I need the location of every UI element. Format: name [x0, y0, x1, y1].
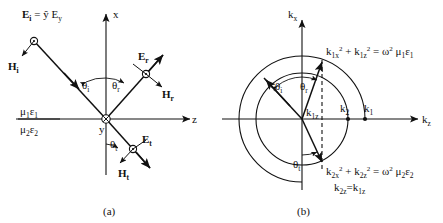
figure-svg: x z y Ei = ŷ Ey Hi Er Hr Et Ht θi [0, 0, 443, 223]
panel-a-reflected-ray-arrow [148, 55, 163, 72]
panel-a-ei-expr: = ŷ E [31, 8, 58, 20]
panel-a-theta-i-arc [86, 78, 106, 82]
panel-b-equation-3: k2z=k1z [334, 181, 366, 196]
panel-a-incident-h-arrow [22, 41, 34, 56]
panel-a-reflected-e-label: Er [138, 50, 149, 65]
panel-b-k1z-label: k1z [306, 106, 319, 121]
figure-root: x z y Ei = ŷ Ey Hi Er Hr Et Ht θi [0, 0, 443, 223]
panel-a-reflected-h-label: Hr [162, 88, 175, 103]
panel-b-k1-axis-dot [363, 117, 367, 121]
panel-a-medium2-label: μ2ε2 [20, 123, 38, 138]
panel-a-theta-r-label: θr [112, 79, 120, 94]
panel-b-k2-axis-dot [346, 117, 350, 121]
panel-b-k2-label: k2 [340, 102, 350, 117]
panel-a-reflected-cross-stroke [133, 64, 146, 74]
panel-b-transmitted-k-arrow [302, 119, 322, 162]
panel-a-group: x z y Ei = ŷ Ey Hi Er Hr Et Ht θi [8, 8, 197, 182]
panel-b-k1-label: k1 [364, 102, 374, 117]
panel-a-transmitted-e-label: Et [142, 133, 152, 148]
panel-a-incident-ray-arrow [64, 73, 79, 89]
panel-a-transmitted-h-label: Ht [118, 167, 130, 182]
panel-b-caption: (b) [297, 205, 310, 218]
panel-a-x-axis-label: x [113, 8, 119, 20]
panel-b-k1-circle-lower [239, 119, 302, 182]
panel-a-ei-expr-sub: y [58, 14, 62, 23]
panel-b-kz-axis-label: kz [422, 113, 432, 128]
panel-a-caption: (a) [103, 205, 116, 218]
panel-a-incident-h-label: Hi [8, 60, 19, 75]
panel-a-reflected-h-arrow [146, 74, 162, 87]
panel-a-transmitted-ray-arrow [136, 152, 150, 168]
panel-a-incident-field-label: Ei = ŷ Ey [22, 8, 62, 23]
panel-b-equation-2: k2x2 + k2z2 = ω2 μ2ε2 [326, 165, 414, 180]
panel-a-theta-t-label: θt [110, 138, 118, 153]
panel-a-medium1-label: μ1ε1 [20, 105, 38, 120]
panel-b-theta-t-label: θt [293, 158, 301, 173]
panel-a-origin-label: y [99, 123, 105, 135]
panel-b-equation-1: k1x2 + k1z2 = ω2 μ1ε1 [326, 45, 414, 60]
panel-b-theta-t-arc [302, 152, 317, 155]
panel-b-group: kx kz θi θr θt k1z k2 k1 k1x2 + k1z2 = ω… [222, 8, 432, 196]
panel-a-ei-symbol: E [22, 8, 29, 20]
panel-b-kx-axis-label: kx [288, 8, 298, 23]
panel-a-z-axis-label: z [192, 113, 197, 125]
panel-b-theta-i-label: θi [275, 80, 282, 95]
panel-a-transmitted-h-arrow [120, 149, 133, 163]
svg-text:Ei = ŷ Ey: Ei = ŷ Ey [22, 8, 62, 23]
panel-b-theta-r-label: θr [300, 80, 308, 95]
